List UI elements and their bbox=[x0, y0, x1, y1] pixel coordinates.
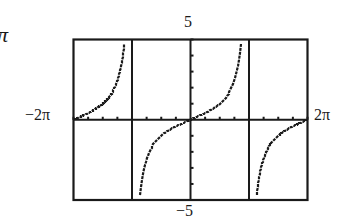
branch-right bbox=[257, 120, 307, 195]
branch-left bbox=[74, 44, 124, 120]
graph-window bbox=[0, 0, 357, 219]
